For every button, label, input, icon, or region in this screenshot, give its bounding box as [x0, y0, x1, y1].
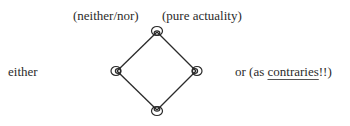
edge-top-left [117, 32, 157, 71]
diamond-diagram [0, 0, 350, 126]
diagram-nodes [111, 27, 202, 116]
edge-top-right [157, 32, 196, 71]
node-bottom [152, 107, 163, 116]
node-left [111, 67, 121, 76]
node-top [152, 27, 163, 36]
edge-right-bottom [157, 71, 196, 110]
node-right [192, 67, 202, 76]
diagram-edges [117, 32, 196, 110]
edge-left-bottom [117, 71, 157, 110]
